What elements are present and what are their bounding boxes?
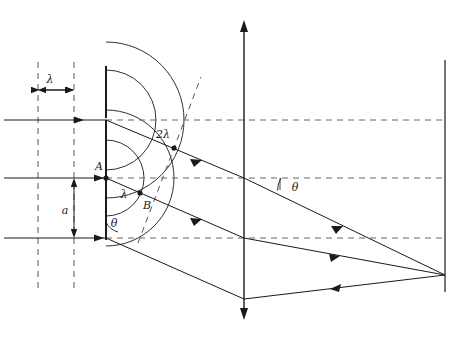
- incident-ray-top-arrow: [74, 117, 84, 124]
- incident-rays: [4, 117, 106, 242]
- angle-theta-axis-marker: θ: [278, 178, 299, 194]
- theta-axis-label: θ: [292, 181, 299, 194]
- point-a-label: A: [94, 160, 103, 173]
- point-a-dot: [103, 175, 108, 180]
- huygens-wavefront-arcs: [106, 42, 184, 246]
- point-b-dot: [137, 190, 142, 195]
- converging-ray-middle: [244, 238, 445, 275]
- diffraction-diagram: λ a: [0, 0, 471, 348]
- point-b-label: B: [142, 199, 151, 212]
- path-difference-point: [171, 145, 176, 150]
- diffracted-ray-middle-arrow: [190, 218, 202, 226]
- theta-axis-arc: [278, 178, 282, 191]
- incident-wavefront-lines: [38, 62, 74, 288]
- wavelength-arrow-left: [38, 87, 46, 93]
- slit-width-label: a: [62, 204, 69, 217]
- incident-ray-bottom-arrow: [94, 235, 104, 242]
- angle-theta-slit-marker: θ: [106, 217, 118, 232]
- slit-width-bracket: a: [62, 178, 77, 238]
- converging-ray-bottom-arrow: [330, 284, 341, 292]
- converging-ray-top-arrow: [331, 226, 343, 234]
- converging-ray-top: [244, 178, 445, 275]
- incident-ray-middle-arrow: [94, 175, 104, 182]
- lens-axis-arrow-top: [240, 20, 248, 32]
- figure-canvas: λ a: [0, 0, 471, 348]
- diffracted-ray-top-arrow: [190, 159, 202, 167]
- wavelength-bracket: λ: [38, 73, 74, 93]
- wavelength-label: λ: [46, 73, 54, 86]
- lens-axis: [240, 20, 248, 320]
- slit-width-arrow-down: [71, 229, 77, 238]
- path-difference-2lambda-label: 2λ: [155, 128, 170, 141]
- converging-ray-bottom: [244, 275, 445, 299]
- lens-axis-arrow-bottom: [240, 308, 248, 320]
- converging-ray-arrowheads: [329, 226, 343, 292]
- theta-slit-label: θ: [111, 217, 118, 230]
- diffracted-ray-arrowheads: [190, 159, 202, 226]
- diffracted-ray-middle: [106, 178, 244, 238]
- diffracted-ray-bottom: [106, 238, 244, 299]
- path-difference-lambda-label: λ: [120, 188, 128, 201]
- wavelength-arrow-right: [66, 87, 74, 93]
- slit-width-arrow-up: [71, 178, 77, 187]
